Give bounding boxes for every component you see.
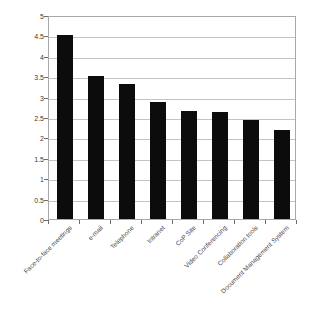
y-axis-tick-label: 3.5 xyxy=(34,74,44,81)
y-axis-tick-label: 1.5 xyxy=(34,155,44,162)
plot-area xyxy=(48,16,296,220)
y-axis-tick-label: 4.5 xyxy=(34,33,44,40)
x-axis-category-labels: Face-to-face meetingse-mailTelephoneIntr… xyxy=(0,224,311,312)
bar xyxy=(150,102,166,219)
bar xyxy=(88,76,104,219)
gridline xyxy=(49,78,295,79)
y-axis-tick-label: 0.5 xyxy=(34,196,44,203)
bar xyxy=(181,111,197,219)
x-axis-category-label: e-mail xyxy=(86,224,104,242)
bar xyxy=(119,84,135,219)
x-axis-category-label: Intranet xyxy=(145,224,166,245)
chart-title xyxy=(0,0,311,4)
x-axis-category-label: Telephone xyxy=(108,224,135,251)
bar xyxy=(274,130,290,219)
x-axis-category-label: Face-to-face meetings xyxy=(22,224,73,275)
x-axis-category-label: CoP Site xyxy=(173,224,197,248)
y-axis-tick-label: 2.5 xyxy=(34,115,44,122)
y-axis-tick-labels: 00.511.522.533.544.55 xyxy=(18,16,44,220)
bar-chart: 00.511.522.533.544.55 Face-to-face meeti… xyxy=(0,0,311,312)
bar xyxy=(243,120,259,219)
gridline xyxy=(49,99,295,100)
bar xyxy=(212,112,228,219)
gridline xyxy=(49,37,295,38)
bar xyxy=(57,35,73,219)
gridline xyxy=(49,58,295,59)
